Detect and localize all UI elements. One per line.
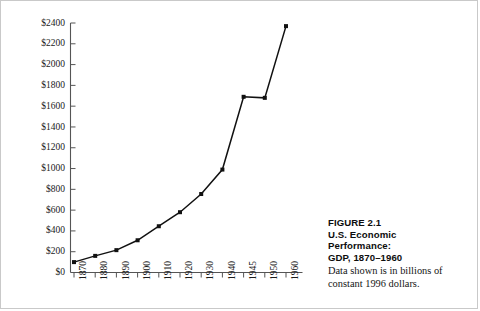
- caption-note: Data shown is in billions of constant 19…: [328, 265, 468, 290]
- caption-line-1: FIGURE 2.1: [328, 217, 468, 229]
- x-axis-label: 1910: [163, 261, 173, 280]
- figure-container: $0$200$400$600$800$1000$1200$1400$1600$1…: [0, 0, 478, 309]
- x-axis-label: 1880: [99, 261, 109, 280]
- caption-line-3: Performance:: [328, 240, 468, 252]
- x-axis-label: 1950: [269, 261, 279, 280]
- x-axis-label: 1920: [184, 261, 194, 280]
- x-axis-label: 1930: [205, 261, 215, 280]
- caption-line-2: U.S. Economic: [328, 229, 468, 241]
- caption-line-4: GDP, 1870–1960: [328, 252, 468, 264]
- x-axis-label: 1940: [227, 261, 237, 280]
- chart-plot-area: $0$200$400$600$800$1000$1200$1400$1600$1…: [1, 1, 321, 310]
- x-axis-label: 1945: [248, 261, 258, 280]
- x-axis-label: 1870: [78, 261, 88, 280]
- x-axis-label: 1890: [121, 261, 131, 280]
- x-axis-label: 1900: [142, 261, 152, 280]
- x-axis-tick-labels: 1870188018901900191019201930194019451950…: [1, 1, 321, 310]
- figure-caption: FIGURE 2.1 U.S. Economic Performance: GD…: [328, 217, 468, 291]
- x-axis-label: 1960: [290, 261, 300, 280]
